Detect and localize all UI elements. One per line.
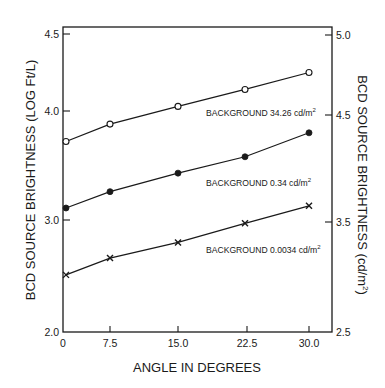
filled-circle-marker bbox=[107, 189, 113, 195]
filled-circle-marker bbox=[242, 154, 248, 160]
series-label-0-34: BACKGROUND 0.34 cd/m2 bbox=[206, 177, 312, 188]
series-label-0-0034: BACKGROUND 0.0034 cd/m2 bbox=[206, 244, 321, 255]
left-y-axis-title: BCD SOURCE BRIGHTNESS (LOG Ft/L) bbox=[23, 60, 38, 301]
right-y-tick-label: 3.5 bbox=[336, 216, 351, 228]
series-line bbox=[66, 206, 309, 275]
x-tick-label: 22.5 bbox=[237, 337, 258, 349]
left-y-tick-label: 2.0 bbox=[44, 326, 59, 338]
series-line bbox=[66, 73, 309, 142]
series-line bbox=[66, 133, 309, 208]
right-y-tick-label: 5.0 bbox=[336, 29, 351, 41]
left-y-axis-ticks: 4.54.03.02.0 bbox=[44, 28, 70, 338]
open-circle-marker bbox=[63, 139, 69, 145]
left-y-tick-label: 4.5 bbox=[44, 28, 59, 40]
filled-circle-marker bbox=[306, 130, 312, 136]
x-axis-ticks: 07.515.022.530.0 bbox=[60, 326, 319, 349]
x-tick-label: 30.0 bbox=[299, 337, 320, 349]
open-circle-marker bbox=[175, 103, 181, 109]
x-axis-title: ANGLE IN DEGREES bbox=[133, 360, 261, 375]
filled-circle-marker bbox=[63, 205, 69, 211]
open-circle-marker bbox=[107, 121, 113, 127]
right-y-tick-label: 2.5 bbox=[336, 326, 351, 338]
x-tick-label: 15.0 bbox=[168, 337, 189, 349]
series-label-34-26: BACKGROUND 34.26 cd/m2 bbox=[206, 107, 317, 118]
left-y-tick-label: 4.0 bbox=[44, 105, 59, 117]
right-y-tick-label: 4.5 bbox=[336, 109, 351, 121]
right-y-axis-title: BCD SOURCE BRIGHTNESS (cd/m2) bbox=[355, 75, 370, 295]
left-y-tick-label: 3.0 bbox=[44, 214, 59, 226]
open-circle-marker bbox=[306, 70, 312, 76]
brightness-vs-angle-chart: 07.515.022.530.0 4.54.03.02.0 5.04.53.52… bbox=[0, 0, 385, 388]
x-tick-label: 0 bbox=[60, 337, 66, 349]
x-tick-label: 7.5 bbox=[103, 337, 118, 349]
open-circle-marker bbox=[242, 86, 248, 92]
filled-circle-marker bbox=[175, 170, 181, 176]
cross-marker bbox=[63, 272, 69, 278]
right-y-axis-ticks: 5.04.53.52.5 bbox=[325, 29, 351, 338]
